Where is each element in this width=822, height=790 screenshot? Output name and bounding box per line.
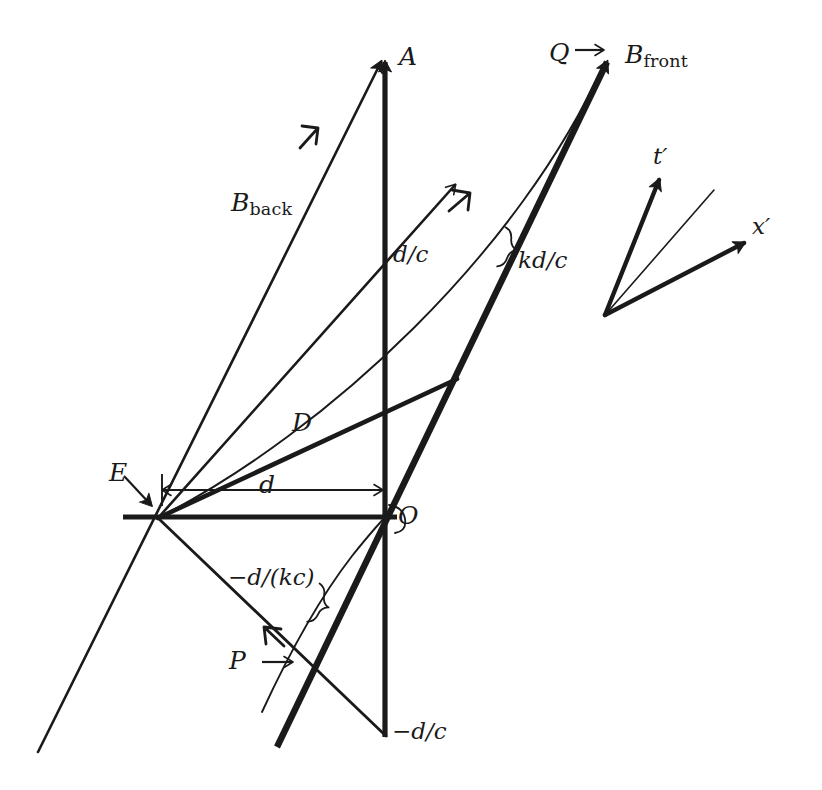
diagram-canvas [0,0,822,790]
worldline-b-back [38,62,381,752]
label-b-front: Bfront [625,42,688,70]
label-d-over-c: d/c [393,243,428,266]
label-d-big: D [292,410,312,435]
label-b-back-main: B [231,188,249,217]
inset-light-cone-line [605,190,714,315]
spacetime-diagram-figure: A Bfront Q Bback d/c kd/c D E d O −d/(kc… [0,0,822,790]
label-t-prime: t′ [653,145,667,168]
label-q-text: Q [549,38,570,67]
light-rays-group [158,64,604,736]
label-neg-d-over-c: −d/c [392,720,447,743]
label-x-prime: x′ [752,215,770,238]
label-a: A [399,44,417,69]
label-o: O [398,503,419,528]
light-ray-p-to-o [262,510,392,712]
label-kd-over-c: kd/c [518,249,567,272]
worldlines-group [38,62,607,752]
label-d-small: d [259,472,275,497]
label-b-front-sub: front [643,51,688,71]
light-ray-e-to-b-front [158,64,604,518]
inset-axis-t-prime [605,180,659,315]
label-q: Q [549,40,570,65]
inset-frame-axes-group [605,180,744,315]
label-e: E [109,460,127,485]
label-p: P [229,648,246,673]
inset-axis-x-prime [605,243,744,315]
braces-group [307,227,521,626]
callout-arrows-group [124,476,151,505]
worldline-b-front [277,62,607,747]
arrowhead-d-over-c-mid [449,190,470,211]
label-b-back-sub: back [249,199,292,219]
arrowhead-b-back-mid [300,126,318,148]
segment-d-distance [158,379,457,518]
label-neg-d-over-kc: −d/(kc) [228,566,315,589]
callout-arrow-e [124,476,151,505]
label-b-front-main: B [625,40,643,69]
label-b-back: Bback [231,190,292,218]
